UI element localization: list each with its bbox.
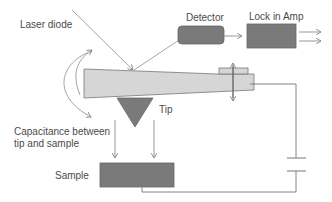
lockin-amp-box xyxy=(247,24,296,48)
capacitance-label-line2: tip and sample xyxy=(14,138,79,150)
laser-beam-reflected xyxy=(134,40,179,70)
tip-label: Tip xyxy=(159,104,173,116)
detector-label: Detector xyxy=(186,12,224,24)
tip xyxy=(117,98,153,127)
sample-block xyxy=(100,163,174,187)
laser-diode-label: Laser diode xyxy=(20,19,72,31)
circuit-wire xyxy=(250,84,296,158)
lockin-amp-label: Lock in Amp xyxy=(249,11,303,23)
capacitance-label-line1: Capacitance between xyxy=(14,126,110,138)
laser-beam-incoming xyxy=(72,10,133,70)
detector-box xyxy=(178,26,224,44)
sample-label: Sample xyxy=(55,170,89,182)
piezo-block xyxy=(219,68,248,74)
